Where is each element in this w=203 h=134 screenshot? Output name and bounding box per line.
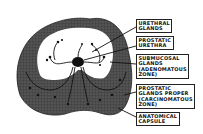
label-submucosal-glands: SUBMUCOSAL GLANDS (ADENOMATOUS ZONE) bbox=[136, 54, 189, 79]
label-prostatic-glands-proper: PROSTATIC GLANDS PROPER (CARCINOMATOUS Z… bbox=[136, 84, 195, 109]
label-line: ZONE) bbox=[139, 72, 187, 78]
label-line: ZONE) bbox=[139, 102, 193, 108]
label-prostatic-urethra: PROSTATIC URETHRA bbox=[136, 36, 174, 50]
label-line: CAPSULE bbox=[139, 119, 178, 125]
prostatic-urethra bbox=[72, 57, 84, 67]
label-line: GLANDS bbox=[139, 26, 170, 32]
label-anatomical-capsule: ANATOMICAL CAPSULE bbox=[136, 112, 180, 126]
label-line: URETHRA bbox=[139, 43, 172, 49]
label-urethral-glands: URETHRAL GLANDS bbox=[136, 19, 172, 33]
